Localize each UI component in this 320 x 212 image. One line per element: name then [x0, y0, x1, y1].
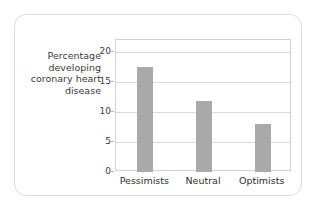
y-tick-mark: [111, 171, 114, 172]
y-tick-mark: [111, 51, 114, 52]
y-tick-label: 10: [85, 106, 111, 116]
y-tick-label: 5: [85, 136, 111, 146]
y-tick-mark: [111, 141, 114, 142]
gridline: [116, 52, 290, 53]
figure-card: Percentage developing coronary heart dis…: [14, 14, 302, 196]
y-tick-mark: [111, 111, 114, 112]
x-category-label: Optimists: [239, 175, 284, 186]
y-axis-ticks: 05101520: [81, 39, 111, 171]
plot-area: [115, 39, 291, 171]
bar: [255, 124, 271, 172]
y-tick-label: 0: [85, 166, 111, 176]
x-category-label: Pessimists: [120, 175, 169, 186]
y-tick-label: 20: [85, 46, 111, 56]
bar-chart: Percentage developing coronary heart dis…: [15, 15, 303, 197]
y-tick-mark: [111, 81, 114, 82]
x-category-label: Neutral: [185, 175, 220, 186]
bar: [196, 101, 212, 172]
y-tick-label: 15: [85, 76, 111, 86]
bar: [137, 67, 153, 172]
